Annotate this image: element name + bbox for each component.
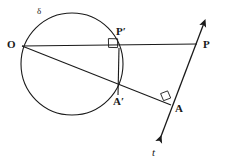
segment-o-to-a — [22, 46, 171, 105]
line-t — [160, 23, 204, 139]
label-point-a: A — [175, 103, 183, 114]
label-line-t: t — [152, 147, 155, 158]
label-point-p: P — [203, 39, 210, 50]
label-point-p-prime: P′ — [116, 26, 126, 37]
label-point-a-prime: A′ — [113, 96, 124, 107]
geometry-figure: δ O P′ P A′ A t — [0, 0, 225, 162]
right-angle-at-a — [161, 91, 171, 101]
label-circle-delta: δ — [37, 7, 41, 16]
segment-o-to-p — [22, 44, 197, 46]
segment-pprime-to-aprime — [118, 48, 119, 95]
right-angle-at-p-prime — [108, 39, 117, 48]
label-point-o: O — [7, 39, 16, 50]
circle-delta — [21, 13, 123, 115]
geometry-canvas — [0, 0, 225, 162]
